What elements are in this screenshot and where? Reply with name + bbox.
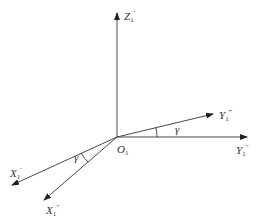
x-double-prime-label: X1″ xyxy=(45,203,59,218)
x-double-prime-axis xyxy=(44,137,117,200)
y-triple-prime-axis xyxy=(117,114,213,137)
x-prime-axis xyxy=(12,137,117,185)
angle-arc-x xyxy=(81,153,88,162)
angle-arc-y xyxy=(156,128,157,137)
y-triple-prime-label: Y1‴ xyxy=(219,108,232,123)
origin-label: O1 xyxy=(117,143,129,157)
y-double-prime-label: Y1″ xyxy=(236,143,249,158)
gamma-label-y: γ xyxy=(175,123,180,135)
gamma-label-x: γ xyxy=(74,151,79,163)
coordinate-diagram: Z1′ Y1‴ Y1″ X1′ X1″ O1 γ γ xyxy=(0,0,256,221)
z-axis-label: Z1′ xyxy=(124,9,136,24)
x-prime-label: X1′ xyxy=(9,166,22,181)
